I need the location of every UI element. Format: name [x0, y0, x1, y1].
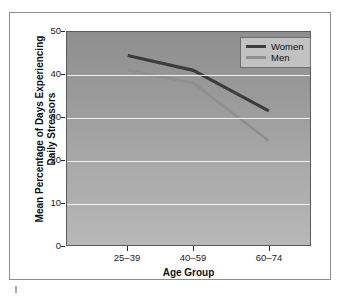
legend-label: Men — [271, 52, 289, 63]
y-tick-mark — [61, 74, 65, 75]
y-tick-mark — [61, 246, 65, 247]
legend-item-men: Men — [246, 52, 304, 63]
gridline — [67, 204, 310, 205]
gridline — [67, 75, 310, 76]
x-tick-label: 25–39 — [97, 252, 157, 263]
figure-container: 01020304050 Age Group Mean Percentage of… — [0, 0, 343, 300]
y-axis-title-line1: Mean Percentage of Days Experiencing — [34, 36, 45, 223]
legend-swatch-icon — [246, 56, 266, 59]
x-tick-label: 60–74 — [239, 252, 299, 263]
legend-label: Women — [271, 41, 304, 52]
x-tick-mark — [127, 246, 128, 251]
x-tick-mark — [193, 246, 194, 251]
y-axis-title: Mean Percentage of Days Experiencing Dai… — [34, 22, 58, 237]
x-tick-label: 40–59 — [163, 252, 223, 263]
y-tick-mark — [61, 203, 65, 204]
y-tick-mark — [61, 31, 65, 32]
y-axis-title-line2: Daily Stressors — [46, 93, 57, 166]
series-line-men — [128, 70, 269, 140]
figure-note-tick — [15, 286, 17, 293]
y-tick-mark — [61, 160, 65, 161]
x-tick-mark — [269, 246, 270, 251]
legend-item-women: Women — [246, 41, 304, 52]
legend-swatch-icon — [246, 45, 266, 48]
y-tick-label: 0 — [35, 241, 61, 251]
chart-legend: WomenMen — [240, 37, 311, 68]
x-axis-title: Age Group — [66, 267, 311, 278]
gridline — [67, 118, 310, 119]
y-tick-mark — [61, 117, 65, 118]
gridline — [67, 161, 310, 162]
